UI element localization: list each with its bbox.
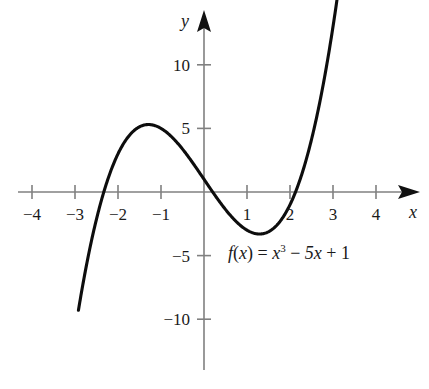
equation-term3: 1 (341, 243, 350, 263)
equation-term1-base: x (272, 243, 280, 263)
function-graph-figure: −4−3−2−11234105−5−10 x y f(x) = x3 − 5x … (0, 0, 429, 389)
x-axis-label: x (409, 203, 417, 221)
y-axis-tick-label: −5 (0, 247, 190, 264)
x-axis-tick-label: 4 (372, 206, 381, 223)
y-axis-tick-label: 5 (0, 120, 190, 137)
function-equation-annotation: f(x) = x3 − 5x + 1 (228, 243, 350, 262)
equation-minus-sign: − (290, 243, 300, 263)
y-axis-tick-label: −10 (0, 311, 190, 328)
equation-term1-exponent: 3 (280, 242, 286, 254)
x-axis-tick-label: −4 (23, 206, 41, 223)
x-axis-tick-label: −3 (66, 206, 84, 223)
x-axis-tick-label: −2 (109, 206, 127, 223)
y-axis-label: y (181, 12, 189, 30)
equation-plus-sign: + (326, 243, 336, 263)
equation-term2: 5x (305, 243, 322, 263)
x-axis-tick-label: 2 (286, 206, 295, 223)
x-axis-tick-label: 3 (329, 206, 338, 223)
y-axis-tick-label: 10 (0, 56, 190, 73)
equation-equals-sign: = (258, 243, 268, 263)
equation-argument: x (239, 243, 247, 263)
x-axis-tick-label: 1 (243, 206, 252, 223)
equation-close-paren: ) (247, 243, 253, 263)
x-axis-tick-label: −1 (152, 206, 170, 223)
